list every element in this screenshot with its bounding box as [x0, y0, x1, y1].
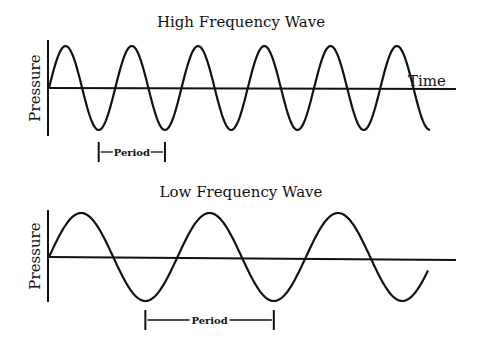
low-y-axis-label: Pressure [26, 222, 44, 289]
wave-diagram: High Frequency Wave Pressure Time Period… [0, 0, 483, 360]
high-time-axis [48, 88, 456, 89]
high-frequency-title: High Frequency Wave [157, 13, 325, 31]
high-frequency-panel: High Frequency Wave Pressure Time Period [26, 13, 456, 162]
high-period-label: Period [114, 147, 150, 158]
low-frequency-panel: Low Frequency Wave Pressure Period [26, 183, 456, 330]
low-period-label: Period [191, 315, 227, 326]
low-time-axis [48, 257, 456, 260]
low-period-marker: Period [145, 310, 273, 330]
high-y-axis-label: Pressure [26, 54, 44, 121]
low-frequency-title: Low Frequency Wave [160, 183, 323, 201]
high-period-marker: Period [99, 142, 165, 162]
